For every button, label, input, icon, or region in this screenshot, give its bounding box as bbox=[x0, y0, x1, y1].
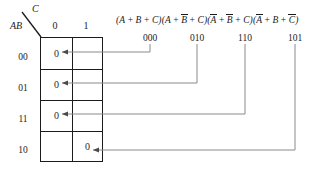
pos-term-2: (A + B + C) bbox=[162, 15, 208, 25]
literal-c: C bbox=[243, 15, 249, 25]
pos-term-3-literals: A + B + C bbox=[211, 15, 250, 25]
or-operator: + bbox=[187, 15, 197, 25]
pos-term-4: (A + B + C) bbox=[253, 15, 299, 25]
or-operator: + bbox=[216, 15, 226, 25]
literal-c: C bbox=[152, 15, 158, 25]
row-header-01: 01 bbox=[12, 83, 34, 93]
pos-expression: (A + B + C)(A + B + C)(A + B + C)(A + B … bbox=[116, 15, 299, 25]
literal-b-negated: B bbox=[181, 15, 187, 25]
leader-line-101 bbox=[93, 44, 295, 150]
pos-term-1-literals: A + B + C bbox=[119, 15, 158, 25]
binary-code-110: 110 bbox=[230, 33, 260, 43]
row-header-00: 00 bbox=[12, 52, 34, 62]
kmap-cell-11-1[interactable] bbox=[72, 100, 103, 131]
row-header-10: 10 bbox=[12, 145, 34, 155]
column-header-1: 1 bbox=[79, 20, 93, 31]
or-operator: + bbox=[125, 15, 135, 25]
or-operator: + bbox=[278, 15, 288, 25]
kmap-figure: AB C 0 1 00 01 11 10 0 0 0 0 (A + B + C)… bbox=[0, 0, 333, 172]
pos-term-4-literals: A + B + C bbox=[256, 15, 295, 25]
pos-term-3: (A + B + C) bbox=[207, 15, 253, 25]
kmap-grid: 0 0 0 0 bbox=[40, 37, 103, 162]
or-operator: + bbox=[142, 15, 152, 25]
binary-code-101: 101 bbox=[280, 33, 310, 43]
kmap-cell-10-1[interactable]: 0 bbox=[72, 131, 103, 162]
corner-diagonal-line bbox=[22, 12, 48, 38]
kmap-cell-00-0[interactable]: 0 bbox=[41, 38, 72, 69]
literal-a-negated: A bbox=[211, 15, 217, 25]
kmap-cell-01-1[interactable] bbox=[72, 69, 103, 100]
or-operator: + bbox=[171, 15, 181, 25]
literal-c: C bbox=[198, 15, 204, 25]
literal-b-negated: B bbox=[227, 15, 233, 25]
literal-c-negated: C bbox=[289, 15, 295, 25]
kmap-cell-11-0[interactable]: 0 bbox=[41, 100, 72, 131]
pos-term-2-literals: A + B + C bbox=[165, 15, 204, 25]
literal-a-negated: A bbox=[256, 15, 262, 25]
or-operator: + bbox=[233, 15, 243, 25]
column-header-0: 0 bbox=[48, 20, 62, 31]
kmap-cell-00-1[interactable] bbox=[72, 38, 103, 69]
or-operator: + bbox=[262, 15, 272, 25]
kmap-cell-10-0[interactable] bbox=[41, 131, 72, 162]
binary-code-000: 000 bbox=[135, 33, 165, 43]
row-variable-label: AB bbox=[10, 20, 22, 31]
pos-term-1: (A + B + C) bbox=[116, 15, 162, 25]
kmap-cell-01-0[interactable]: 0 bbox=[41, 69, 72, 100]
row-header-11: 11 bbox=[12, 114, 34, 124]
binary-code-010: 010 bbox=[182, 33, 212, 43]
